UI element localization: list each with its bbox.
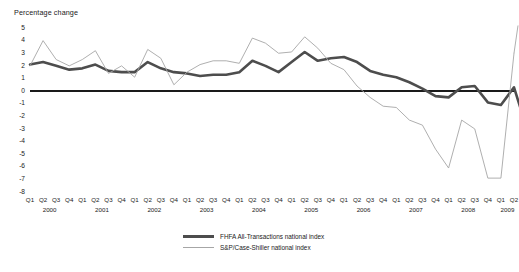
y-axis-tick-label: -4	[19, 138, 25, 145]
x-axis-tick-label: Q2	[39, 196, 47, 203]
x-axis-tick-label: Q4	[117, 196, 125, 203]
x-axis-tick-label: Q2	[301, 196, 309, 203]
y-axis-tick-label: 2	[21, 63, 25, 70]
x-axis-tick-label: Q4	[327, 196, 335, 203]
series-line-2-tail	[514, 25, 518, 53]
x-axis-tick-label: Q1	[392, 196, 400, 203]
y-axis-tick-label: 4	[21, 37, 25, 44]
x-axis-tick-label: Q4	[65, 196, 73, 203]
legend-item: S&P/Case-Shiller national index	[183, 242, 433, 253]
x-axis-year-label: 2003	[200, 206, 214, 213]
x-axis-tick-label: Q3	[418, 196, 426, 203]
x-axis-year-label: 2002	[147, 206, 161, 213]
x-axis-year-label: 2004	[252, 206, 266, 213]
x-axis-tick-label: Q1	[183, 196, 191, 203]
legend-item: FHFA All-Transactions national index	[183, 231, 433, 242]
x-axis-tick-label: Q4	[170, 196, 178, 203]
y-axis-tick-label: -7	[19, 176, 25, 183]
x-axis-tick-label: Q1	[497, 196, 505, 203]
y-axis-tick-label: 1	[21, 75, 25, 82]
x-axis-year-label: 2001	[95, 206, 109, 213]
x-axis-tick-label: Q1	[287, 196, 295, 203]
x-axis-year-label: 2006	[357, 206, 371, 213]
x-axis-tick-label: Q4	[431, 196, 439, 203]
x-axis-year-label: 2007	[409, 206, 423, 213]
x-axis-year-label: 2005	[304, 206, 318, 213]
x-axis-tick-label: Q4	[379, 196, 387, 203]
chart-lines	[30, 28, 514, 192]
x-axis-tick-label: Q1	[340, 196, 348, 203]
x-axis-year-label: 2000	[43, 206, 57, 213]
x-axis-year-label: 2009	[501, 206, 515, 213]
x-axis-tick-label: Q2	[353, 196, 361, 203]
x-axis-tick-label: Q2	[458, 196, 466, 203]
y-axis-tick-label: -2	[19, 113, 25, 120]
x-axis-tick-label: Q4	[484, 196, 492, 203]
y-axis-tick-label: 5	[21, 25, 25, 32]
x-axis-tick-label: Q3	[52, 196, 60, 203]
x-axis-tick-label: Q1	[26, 196, 34, 203]
y-axis-tick-label: -3	[19, 126, 25, 133]
legend-item-label: S&P/Case-Shiller national index	[220, 244, 311, 252]
y-axis-tick-label: -8	[19, 189, 25, 196]
x-axis-tick-label: Q2	[91, 196, 99, 203]
y-axis-tick-label: -5	[19, 151, 25, 158]
x-axis-tick-label: Q2	[510, 196, 518, 203]
x-axis-year-labels: 2000200120022003200420052006200720082009	[30, 206, 514, 218]
x-axis-tick-label: Q2	[405, 196, 413, 203]
legend: FHFA All-Transactions national indexS&P/…	[183, 231, 433, 253]
x-axis-tick-label: Q3	[261, 196, 269, 203]
y-axis-tick-label: 3	[21, 50, 25, 57]
x-axis-tick-label: Q1	[78, 196, 86, 203]
series-line-1	[30, 52, 519, 116]
x-axis-tick-label: Q3	[209, 196, 217, 203]
x-axis-tick-label: Q4	[222, 196, 230, 203]
chart-container: Percentage change 543210-1-2-3-4-5-6-7-8…	[0, 0, 519, 272]
y-axis-tick-label: 0	[21, 88, 25, 95]
plot-area	[30, 28, 514, 192]
legend-line-swatch	[183, 243, 214, 252]
x-axis-tick-label: Q1	[444, 196, 452, 203]
x-axis-tick-label: Q3	[314, 196, 322, 203]
x-axis-tick-label: Q2	[248, 196, 256, 203]
y-axis-title: Percentage change	[14, 8, 78, 17]
x-axis-tick-label: Q2	[196, 196, 204, 203]
x-axis-tick-label: Q3	[104, 196, 112, 203]
series-line-2	[30, 37, 514, 178]
y-axis-ticks: 543210-1-2-3-4-5-6-7-8	[0, 28, 25, 192]
x-axis-tick-label: Q2	[144, 196, 152, 203]
x-axis-tick-label: Q3	[157, 196, 165, 203]
x-axis-tick-label: Q1	[235, 196, 243, 203]
legend-line-swatch	[183, 232, 214, 241]
x-axis-tick-label: Q3	[366, 196, 374, 203]
x-axis-year-label: 2008	[461, 206, 475, 213]
y-axis-tick-label: -6	[19, 163, 25, 170]
y-axis-tick-label: -1	[19, 100, 25, 107]
x-axis-tick-label: Q1	[131, 196, 139, 203]
x-axis-tick-label: Q3	[471, 196, 479, 203]
legend-item-label: FHFA All-Transactions national index	[220, 233, 324, 241]
x-axis-tick-label: Q4	[274, 196, 282, 203]
